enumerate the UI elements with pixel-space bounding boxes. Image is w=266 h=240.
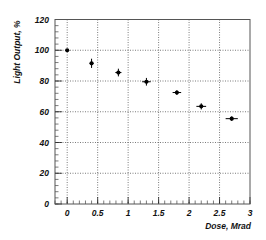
grid-lines: [55, 20, 250, 205]
x-tick-label: 1.5: [153, 208, 165, 218]
data-point: [142, 78, 151, 86]
y-tick-label: 80: [40, 76, 50, 86]
x-tick-label: 0.5: [92, 208, 104, 218]
data-point: [89, 59, 93, 68]
data-points: [65, 48, 238, 121]
y-tick-label: 20: [39, 168, 50, 178]
x-tick-labels: 00.511.522.53: [65, 208, 253, 218]
x-tick-label: 2: [186, 208, 192, 218]
x-axis-title: Dose, Mrad: [205, 221, 252, 231]
chart: 00.511.522.53 020406080100120 Dose, Mrad…: [0, 0, 266, 240]
data-point: [226, 116, 238, 121]
x-tick-label: 2.5: [213, 208, 226, 218]
y-tick-label: 60: [40, 107, 50, 117]
y-tick-label: 100: [35, 45, 49, 55]
data-point: [196, 103, 206, 109]
y-tick-label: 120: [35, 15, 49, 25]
y-axis-title: Light Output, %: [12, 20, 22, 84]
x-tick-label: 3: [248, 208, 253, 218]
data-point: [65, 48, 69, 52]
y-tick-label: 40: [39, 138, 50, 148]
x-tick-label: 1: [126, 208, 131, 218]
data-point: [173, 90, 182, 95]
data-point: [115, 69, 121, 77]
y-tick-label: 0: [44, 199, 49, 209]
y-tick-labels: 020406080100120: [35, 15, 49, 210]
x-tick-label: 0: [65, 208, 70, 218]
